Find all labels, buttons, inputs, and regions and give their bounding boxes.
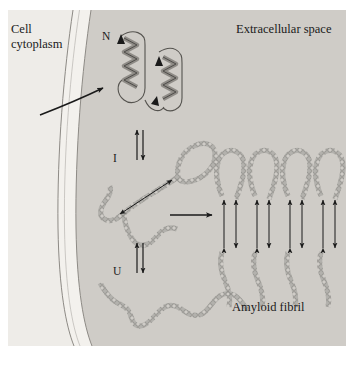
label-cell-cytoplasm-line2: cytoplasm bbox=[11, 37, 62, 52]
label-unfolded-state: U bbox=[113, 265, 121, 279]
label-amyloid-fibril: Amyloid fibril bbox=[232, 300, 305, 315]
protein-misfolding-figure: Cell cytoplasm Extracellular space Amylo… bbox=[0, 0, 360, 369]
label-intermediate-state: I bbox=[113, 152, 117, 166]
label-extracellular-space: Extracellular space bbox=[236, 22, 331, 37]
label-cell-cytoplasm-line1: Cell bbox=[11, 22, 62, 37]
label-cell-cytoplasm: Cell cytoplasm bbox=[11, 22, 62, 52]
label-native-state: N bbox=[102, 30, 110, 44]
figure-canvas bbox=[0, 0, 360, 369]
